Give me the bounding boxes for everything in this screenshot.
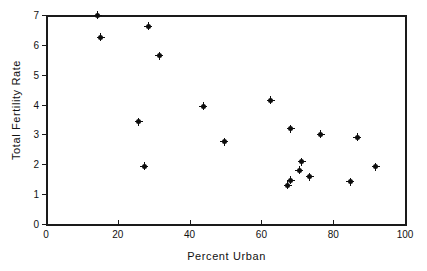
data-point: [146, 24, 151, 29]
plot-frame-right: [405, 15, 407, 226]
y-tick-mark: [42, 105, 48, 106]
x-axis-title: Percent Urban: [46, 250, 407, 262]
data-point: [95, 13, 100, 18]
x-tick-label: 80: [328, 229, 339, 240]
data-point: [348, 179, 353, 184]
y-tick-mark: [42, 15, 48, 16]
y-tick-label: 0: [33, 219, 39, 230]
y-tick-label: 4: [33, 99, 39, 110]
data-point: [136, 119, 141, 124]
plot-area: 01234567 020406080100: [46, 15, 407, 226]
x-tick-mark: [405, 220, 406, 226]
x-tick-label: 60: [256, 229, 267, 240]
x-tick-label: 40: [184, 229, 195, 240]
y-axis-title: Total Fertility Rate: [10, 30, 22, 190]
y-tick-mark: [42, 45, 48, 46]
data-point: [288, 126, 293, 131]
y-tick-mark: [42, 224, 48, 225]
x-tick-label: 20: [112, 229, 123, 240]
x-tick-mark: [190, 220, 191, 226]
y-tick-mark: [42, 194, 48, 195]
x-tick-mark: [333, 220, 334, 226]
data-point: [142, 164, 147, 169]
x-tick-mark: [46, 220, 47, 226]
y-tick-label: 7: [33, 10, 39, 21]
data-point: [288, 178, 293, 183]
y-tick-mark: [42, 134, 48, 135]
x-axis-line: [46, 224, 407, 226]
data-point: [98, 35, 103, 40]
y-tick-label: 5: [33, 69, 39, 80]
data-point: [157, 53, 162, 58]
data-point: [299, 159, 304, 164]
data-point: [201, 104, 206, 109]
data-point: [355, 135, 360, 140]
data-point: [318, 132, 323, 137]
x-tick-mark: [118, 220, 119, 226]
data-point: [373, 164, 378, 169]
x-tick-label: 0: [43, 229, 49, 240]
y-tick-mark: [42, 75, 48, 76]
x-tick-label: 100: [397, 229, 414, 240]
data-point: [307, 174, 312, 179]
y-tick-label: 3: [33, 129, 39, 140]
data-point: [297, 168, 302, 173]
y-tick-label: 6: [33, 39, 39, 50]
y-tick-label: 1: [33, 189, 39, 200]
scatter-chart: 01234567 020406080100 Percent Urban Tota…: [0, 0, 427, 271]
data-point: [222, 139, 227, 144]
y-tick-mark: [42, 164, 48, 165]
y-tick-label: 2: [33, 159, 39, 170]
data-point: [268, 98, 273, 103]
x-tick-mark: [261, 220, 262, 226]
